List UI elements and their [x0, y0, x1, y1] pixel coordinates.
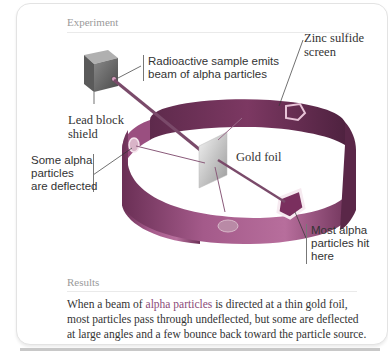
zinc-sulfide-screen-back — [150, 99, 345, 145]
lead-block-cube — [84, 50, 118, 92]
highlight-alpha-particles: alpha particles — [146, 298, 213, 310]
main-impact-glow — [278, 190, 304, 218]
results-divider — [67, 291, 357, 292]
label-gold-foil: Gold foil — [236, 150, 281, 164]
results-paragraph: When a beam of alpha particles is direct… — [67, 297, 367, 342]
results-heading: Results — [67, 276, 99, 288]
label-most-hit: Most alphaparticles hithere — [311, 224, 369, 263]
most-hit-bar — [306, 224, 307, 264]
label-source: Radioactive sample emitsbeam of alpha pa… — [148, 55, 279, 81]
label-zinc-screen: Zinc sulfidescreen — [304, 31, 364, 59]
source-bar — [143, 55, 144, 81]
gold-foil — [199, 132, 227, 188]
label-lead-block: Lead blockshield — [68, 113, 124, 141]
label-deflected: Some alphaparticlesare deflected — [31, 154, 98, 193]
